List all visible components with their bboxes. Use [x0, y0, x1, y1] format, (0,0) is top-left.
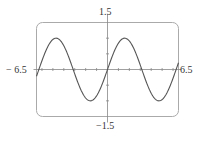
- x-min-label: − 6.5: [6, 64, 27, 75]
- y-max-label: 1.5: [99, 6, 112, 17]
- y-min-label: −1.5: [96, 120, 114, 131]
- x-max-label: 6.5: [180, 64, 193, 75]
